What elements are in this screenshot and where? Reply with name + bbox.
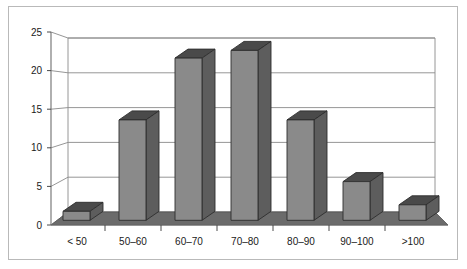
bar-column (231, 41, 271, 220)
y-tick-label-10: 10 (31, 142, 43, 153)
x-axis-labels: < 50 50–60 60–70 70–80 80–90 90–100 >100 (67, 236, 425, 247)
x-tick-label-80-90: 80–90 (287, 236, 315, 247)
screenshot-root: 0 5 10 15 20 25 (0, 0, 467, 269)
x-tick-label-90-100: 90–100 (340, 236, 374, 247)
x-tick-label-50-60: 50–60 (119, 236, 147, 247)
chart-canvas: 0 5 10 15 20 25 (0, 0, 467, 269)
bar-column (287, 111, 327, 220)
x-tick-label-lt50: < 50 (67, 236, 87, 247)
axis-depth-connectors (51, 32, 68, 225)
y-tick-label-20: 20 (31, 65, 43, 76)
x-tick-label-70-80: 70–80 (231, 236, 259, 247)
bar-chart: 0 5 10 15 20 25 (0, 0, 467, 269)
bar-column (175, 49, 215, 220)
y-tick-label-25: 25 (31, 27, 43, 38)
bar-column (119, 111, 159, 220)
x-tick-label-gt100: >100 (402, 236, 425, 247)
bar-column (343, 173, 383, 221)
y-tick-label-15: 15 (31, 104, 43, 115)
x-axis (51, 225, 448, 231)
y-tick-label-5: 5 (36, 181, 42, 192)
x-tick-label-60-70: 60–70 (175, 236, 203, 247)
y-axis: 0 5 10 15 20 25 (31, 27, 51, 231)
y-tick-label-0: 0 (36, 220, 42, 231)
